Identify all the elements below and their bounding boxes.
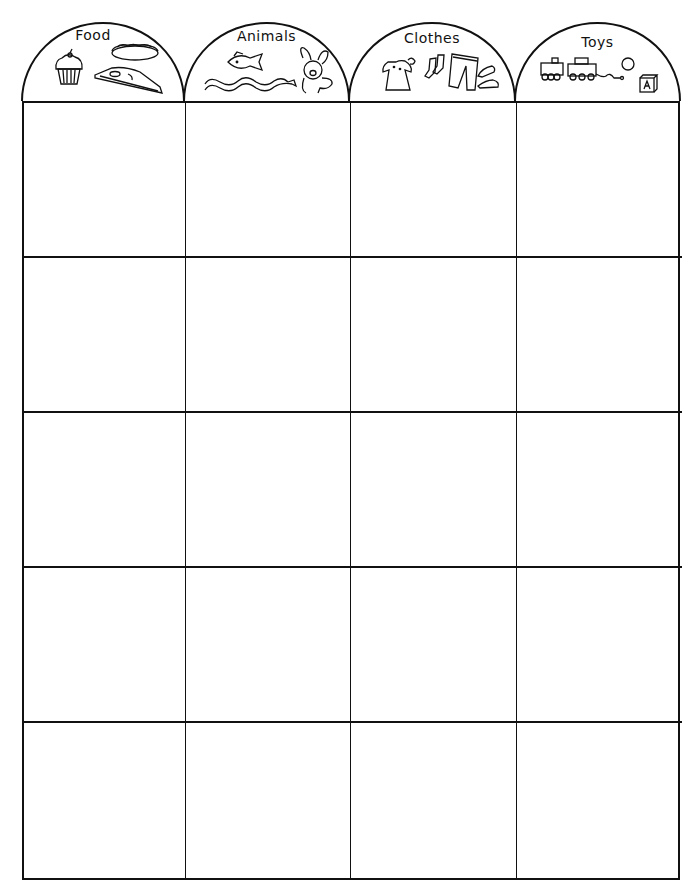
column-label-clothes: Clothes	[349, 30, 515, 46]
cell-clothes-1[interactable]	[351, 103, 517, 258]
cell-animals-4[interactable]	[186, 568, 351, 723]
sorting-grid	[22, 101, 680, 880]
cell-food-2[interactable]	[24, 258, 186, 413]
cell-animals-1[interactable]	[186, 103, 351, 258]
cell-food-3[interactable]	[24, 413, 186, 568]
column-header-food: Food	[22, 16, 184, 102]
cell-food-1[interactable]	[24, 103, 186, 258]
cell-animals-3[interactable]	[186, 413, 351, 568]
cell-clothes-3[interactable]	[351, 413, 517, 568]
column-header-clothes: Clothes	[349, 16, 515, 102]
cell-toys-5[interactable]	[517, 723, 682, 878]
cell-clothes-5[interactable]	[351, 723, 517, 878]
sorting-worksheet: Food Animals Clothes Toys	[0, 0, 697, 890]
column-label-toys: Toys	[515, 34, 680, 50]
cell-toys-1[interactable]	[517, 103, 682, 258]
cell-clothes-4[interactable]	[351, 568, 517, 723]
cell-food-5[interactable]	[24, 723, 186, 878]
cell-toys-3[interactable]	[517, 413, 682, 568]
column-header-toys: Toys	[515, 16, 680, 102]
cell-food-4[interactable]	[24, 568, 186, 723]
column-label-food: Food	[2, 27, 184, 43]
cell-toys-2[interactable]	[517, 258, 682, 413]
cell-toys-4[interactable]	[517, 568, 682, 723]
cell-animals-5[interactable]	[186, 723, 351, 878]
cell-animals-2[interactable]	[186, 258, 351, 413]
column-header-animals: Animals	[184, 16, 349, 102]
column-label-animals: Animals	[184, 28, 349, 44]
cell-clothes-2[interactable]	[351, 258, 517, 413]
